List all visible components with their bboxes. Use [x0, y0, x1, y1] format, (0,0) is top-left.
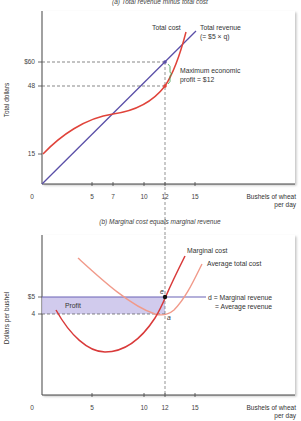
point-tc-max [163, 84, 167, 88]
point-a-label: a [167, 314, 171, 321]
x-tick-0: 0 [30, 193, 34, 200]
x-tick-7: 7 [111, 193, 115, 200]
mr-label-line2: = Average revenue [215, 303, 272, 311]
total-cost-label: Total cost [152, 24, 181, 31]
marginal-cost-label: Marginal cost [187, 247, 228, 255]
panel-a-title: (a) Total revenue minus total cost [112, 0, 209, 6]
panel-a: (a) Total revenue minus total cost $60 4… [3, 0, 297, 236]
y-tick-15: 15 [28, 150, 36, 157]
x-tick-15: 15 [191, 193, 199, 200]
x-tick-10: 10 [140, 193, 148, 200]
x-tick-15: 15 [191, 404, 199, 411]
y-tick-60: $60 [24, 58, 35, 65]
x-tick-5: 5 [90, 404, 94, 411]
panel-a-y-ticks: $60 48 15 [24, 58, 42, 157]
total-revenue-label-line2: (= $5 × q) [200, 33, 229, 41]
panel-a-x-label-line1: Bushels of wheat [246, 193, 296, 200]
profit-label: Profit [65, 302, 81, 309]
profit-area [42, 297, 165, 314]
x-tick-10: 10 [140, 404, 148, 411]
max-profit-label-line1: Maximum economic [180, 67, 241, 74]
panel-b: (b) Marginal cost equals marginal revenu… [3, 218, 297, 420]
panel-b-y-label: Dollars per bushel [3, 291, 11, 344]
panel-b-title: (b) Marginal cost equals marginal revenu… [99, 218, 221, 226]
y-tick-4: 4 [31, 310, 35, 317]
panel-a-y-label: Total dollars [3, 82, 10, 117]
panel-a-x-ticks: 0 5 7 10 12 15 [30, 182, 199, 200]
panel-b-x-label-line1: Bushels of wheat [246, 404, 296, 411]
y-tick-5: $5 [28, 293, 36, 300]
point-e-label: e [160, 288, 164, 295]
panel-b-y-ticks: $5 4 [28, 293, 42, 317]
panel-b-x-label-line2: per day [274, 412, 296, 420]
mr-label-line1: d = Marginal revenue [208, 294, 272, 302]
total-revenue-label-line1: Total revenue [200, 24, 241, 31]
panel-b-x-ticks: 0 5 10 12 15 [30, 393, 199, 411]
x-tick-0: 0 [30, 404, 34, 411]
x-tick-12: 12 [161, 404, 169, 411]
point-tr-max [163, 60, 167, 64]
figure: (a) Total revenue minus total cost $60 4… [0, 0, 301, 421]
max-profit-label-line2: profit = $12 [180, 76, 214, 84]
point-e [163, 295, 167, 299]
panel-a-x-label-line2: per day [274, 201, 296, 209]
average-total-cost-label: Average total cost [207, 260, 261, 268]
y-tick-48: 48 [28, 82, 36, 89]
panel-a-plot-area [42, 11, 295, 184]
x-tick-5: 5 [90, 193, 94, 200]
